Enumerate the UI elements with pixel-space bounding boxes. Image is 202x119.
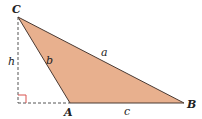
vertex-label-a: A [63,106,73,119]
side-label-a: a [101,46,108,59]
side-label-c: c [124,105,130,118]
triangle-diagram: C A B a b c h [0,0,202,119]
side-label-b: b [46,54,53,67]
triangle-abc [18,17,184,103]
vertex-label-b: B [186,98,196,111]
altitude-label-h: h [8,55,15,68]
right-angle-marker [18,95,26,103]
vertex-label-c: C [12,3,21,16]
